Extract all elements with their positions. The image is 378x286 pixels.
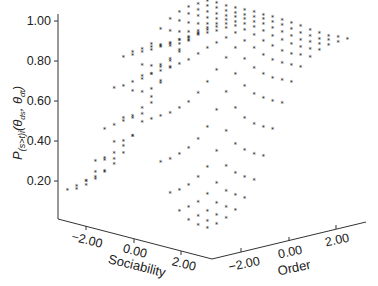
svg-text:*: * [187, 217, 191, 225]
z-tick-label: 1.00 [27, 14, 51, 28]
svg-text:*: * [168, 190, 172, 198]
svg-text:*: * [205, 124, 209, 132]
svg-text:*: * [149, 44, 153, 52]
svg-text:*: * [131, 113, 135, 121]
svg-text:*: * [289, 79, 293, 87]
svg-text:*: * [168, 28, 172, 36]
svg-text:*: * [289, 33, 293, 41]
svg-text:*: * [168, 110, 172, 118]
svg-text:*: * [121, 143, 125, 151]
svg-text:*: * [271, 43, 275, 51]
svg-text:*: * [168, 65, 172, 73]
svg-text:*: * [196, 222, 200, 230]
svg-text:*: * [317, 47, 321, 55]
svg-text:*: * [271, 75, 275, 83]
svg-text:*: * [196, 136, 200, 144]
svg-text:*: * [308, 54, 312, 62]
svg-text:*: * [252, 121, 256, 129]
svg-text:*: * [299, 64, 303, 72]
svg-text:*: * [280, 37, 284, 45]
svg-text:*: * [205, 191, 209, 199]
svg-text:*: * [224, 163, 228, 171]
svg-text:*: * [131, 49, 135, 57]
svg-text:*: * [215, 148, 219, 156]
svg-text:*: * [327, 42, 331, 50]
svg-text:*: * [168, 156, 172, 164]
svg-text:*: * [289, 41, 293, 49]
svg-text:*: * [233, 141, 237, 149]
svg-text:*: * [112, 122, 116, 130]
z-ticks: 0.20 0.40 0.60 0.80 1.00 [27, 14, 58, 188]
svg-text:*: * [75, 186, 79, 194]
z-tick-label: 0.80 [27, 54, 51, 68]
svg-text:*: * [233, 105, 237, 113]
svg-text:*: * [131, 133, 135, 141]
svg-text:*: * [149, 86, 153, 94]
svg-text:*: * [224, 55, 228, 63]
svg-text:*: * [345, 36, 349, 44]
svg-text:*: * [243, 174, 247, 182]
svg-text:*: * [252, 151, 256, 159]
svg-text:*: * [215, 67, 219, 75]
svg-text:*: * [168, 40, 172, 48]
svg-text:*: * [205, 225, 209, 233]
svg-text:*: * [224, 204, 228, 212]
svg-text:*: * [271, 33, 275, 41]
svg-text:*: * [103, 155, 107, 163]
svg-text:*: * [233, 170, 237, 178]
svg-text:*: * [187, 11, 191, 19]
svg-text:*: * [261, 71, 265, 79]
svg-text:*: * [196, 90, 200, 98]
z-tick-label: 0.20 [27, 174, 51, 188]
svg-text:*: * [336, 39, 340, 47]
svg-text:*: * [159, 113, 163, 121]
svg-text:*: * [103, 126, 107, 134]
svg-text:*: * [121, 118, 125, 126]
svg-text:*: * [224, 128, 228, 136]
svg-text:*: * [140, 62, 144, 70]
svg-text:*: * [196, 32, 200, 40]
svg-text:*: * [271, 25, 275, 33]
svg-text:*: * [252, 65, 256, 73]
svg-text:*: * [187, 182, 191, 190]
svg-text:*: * [243, 56, 247, 64]
svg-text:*: * [205, 30, 209, 38]
svg-text:*: * [261, 153, 265, 161]
svg-text:*: * [187, 204, 191, 212]
svg-text:*: * [224, 35, 228, 43]
svg-text:*: * [131, 79, 135, 87]
svg-text:*: * [196, 199, 200, 207]
svg-text:*: * [177, 187, 181, 195]
svg-text:*: * [215, 28, 219, 36]
svg-text:*: * [93, 158, 97, 166]
svg-text:*: * [159, 159, 163, 167]
svg-text:*: * [215, 107, 219, 115]
svg-text:*: * [271, 57, 275, 65]
surface-scatter-chart: ****************************************… [0, 0, 378, 286]
svg-text:*: * [112, 150, 116, 158]
svg-text:*: * [215, 212, 219, 220]
svg-text:*: * [140, 89, 144, 97]
svg-text:*: * [280, 77, 284, 85]
svg-text:*: * [168, 56, 172, 64]
svg-text:P(s>t)i(θds, θdt): P(s>t)i(θds, θdt) [10, 86, 27, 160]
svg-text:*: * [261, 28, 265, 36]
svg-text:*: * [177, 29, 181, 37]
svg-text:*: * [224, 89, 228, 97]
z-tick-label: 0.60 [27, 94, 51, 108]
svg-text:*: * [159, 26, 163, 34]
svg-text:*: * [187, 57, 191, 65]
svg-text:*: * [233, 207, 237, 215]
svg-text:*: * [177, 18, 181, 26]
svg-text:*: * [205, 79, 209, 87]
svg-text:*: * [65, 187, 69, 195]
svg-text:*: * [280, 100, 284, 108]
svg-text:*: * [299, 52, 303, 60]
svg-text:*: * [261, 124, 265, 132]
svg-text:*: * [196, 174, 200, 182]
svg-text:*: * [271, 98, 275, 106]
svg-text:*: * [159, 42, 163, 50]
svg-text:*: * [215, 180, 219, 188]
svg-text:*: * [233, 30, 237, 38]
svg-text:*: * [187, 35, 191, 43]
